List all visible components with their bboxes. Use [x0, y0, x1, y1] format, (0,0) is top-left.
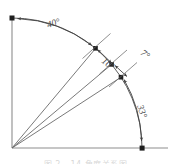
angle-label-10: 10° [100, 56, 117, 72]
quarter-arc [12, 18, 142, 148]
ray-3 [12, 77, 121, 148]
angle-label-40: 40° [46, 16, 62, 30]
angle-labels-group: 40° 10° 7° 33° [46, 16, 152, 119]
ray-2 [12, 64, 112, 148]
angle-diagram-svg: 40° 10° 7° 33° [0, 0, 171, 164]
arc-top-endpoint-marker [10, 16, 15, 21]
angle-label-33: 33° [135, 102, 149, 119]
angle-label-7: 7° [139, 48, 152, 61]
ray-1 [12, 48, 96, 148]
arc-group [12, 18, 142, 148]
figure-container: 40° 10° 7° 33° 图 2 - 14 角度关系图 [0, 0, 171, 164]
arc-bottom-endpoint-marker [140, 146, 145, 151]
ray-3-arc-marker [119, 75, 124, 80]
